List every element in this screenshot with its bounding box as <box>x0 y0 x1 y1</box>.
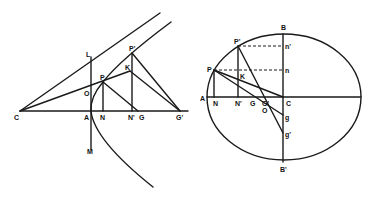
label-n: n <box>285 67 289 74</box>
label-G2: G' <box>176 114 183 121</box>
label-C: C <box>14 114 19 121</box>
label-G2: G' <box>262 100 269 107</box>
label-C: C <box>286 100 291 107</box>
label-O: O <box>84 90 90 97</box>
label-g2: g' <box>285 131 291 139</box>
label-P2: P' <box>234 38 241 45</box>
label-A: A <box>200 95 205 102</box>
label-g: g <box>285 114 289 122</box>
diagram-canvas: C A N N' G G' L P P' K O M B B' P' n' P … <box>0 0 372 197</box>
label-A: A <box>84 114 89 121</box>
normal-PG <box>103 82 138 111</box>
label-P2: P' <box>129 45 136 52</box>
left-figure: C A N N' G G' L P P' K O M <box>14 13 188 187</box>
label-B: B <box>281 24 286 31</box>
label-N2: N' <box>128 114 135 121</box>
label-K: K <box>125 64 130 71</box>
label-G: G <box>139 114 145 121</box>
label-O: O <box>262 107 268 114</box>
label-n2: n' <box>285 43 291 50</box>
right-figure: B B' P' n' P n K A N N' G G' C O g g' <box>200 24 361 173</box>
label-P: P <box>207 66 212 73</box>
label-G: G <box>250 100 256 107</box>
label-N: N <box>100 114 105 121</box>
label-M: M <box>87 148 93 155</box>
label-N: N <box>213 100 218 107</box>
normal-P2G2 <box>132 53 180 111</box>
label-B2: B' <box>280 166 287 173</box>
label-N2: N' <box>235 100 242 107</box>
line-KG2 <box>130 71 180 111</box>
label-L: L <box>86 51 91 58</box>
label-P: P <box>100 74 105 81</box>
label-K: K <box>240 73 245 80</box>
